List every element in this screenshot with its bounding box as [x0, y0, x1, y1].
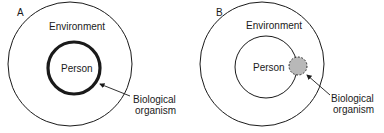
annotation-b-line2: organism — [333, 104, 374, 115]
diagram-canvas: A Environment Person Biological organism… — [0, 0, 384, 133]
person-label-a: Person — [61, 63, 93, 74]
environment-label-b: Environment — [246, 20, 302, 31]
arrow-b — [307, 75, 330, 95]
annotation-a-line1: Biological — [133, 94, 176, 105]
panel-a: A Environment Person Biological organism — [8, 2, 176, 126]
annotation-a-line2: organism — [135, 105, 176, 116]
panel-a-label: A — [17, 7, 24, 18]
annotation-b-line1: Biological — [331, 93, 374, 104]
organism-circle-b — [289, 57, 307, 75]
arrow-a — [100, 84, 130, 96]
environment-label-a: Environment — [49, 21, 105, 32]
person-label-b: Person — [253, 62, 285, 73]
panel-b: B Environment Person Biological organism — [200, 2, 374, 126]
